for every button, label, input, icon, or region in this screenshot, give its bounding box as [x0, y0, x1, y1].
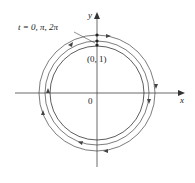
x-axis — [15, 90, 185, 96]
arrow-icon — [46, 88, 50, 93]
point-label: (0, 1) — [87, 54, 107, 64]
y-axis-arrow-icon — [94, 12, 100, 19]
origin-label: 0 — [88, 96, 93, 106]
param-label: t = 0, π, 2π — [18, 22, 59, 32]
arrow-icon — [68, 42, 73, 47]
x-axis-label: x — [179, 95, 184, 105]
middle-start-point — [95, 39, 98, 42]
point-0-1 — [95, 43, 98, 46]
outer-start-point — [95, 33, 98, 36]
y-axis-label: y — [87, 10, 92, 20]
arrow-icon — [147, 99, 151, 104]
leader-line — [74, 32, 95, 43]
arrow-icon — [106, 34, 111, 38]
diagram-canvas: y x 0 (0, 1) t = 0, π, 2π — [0, 0, 195, 183]
direction-arrows — [41, 34, 158, 153]
arrow-icon — [103, 149, 108, 153]
